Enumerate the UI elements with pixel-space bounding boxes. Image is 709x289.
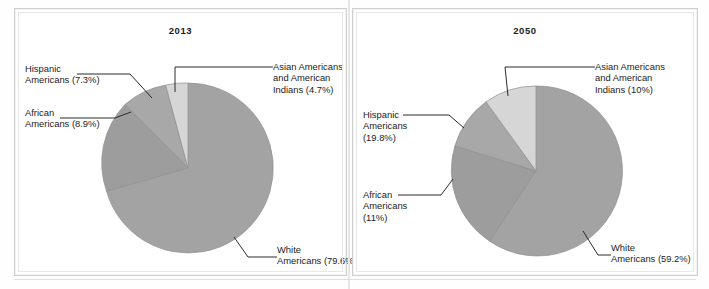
label-asian-line3-2013: Indians (4.7%) [273,84,343,95]
label-african-line3-2050: (11%) [363,212,407,223]
label-white-line2-2050: Americans (59.2%) [611,253,691,264]
chart-panel-2013: 2013 Asian Americans and American Indian… [14,8,347,276]
panel-divider [348,0,350,289]
label-white-americans-2013: White Americans (79.6%) [277,244,357,267]
figure-bottom-rule [14,279,696,280]
label-hispanic-line1-2050: Hispanic [363,109,407,120]
label-african-line2-2050: Americans [363,200,407,211]
label-african-americans-2050: African Americans (11%) [363,189,407,223]
label-hispanic-line3-2050: (19.8%) [363,132,407,143]
label-asian-line1-2050: Asian Americans [595,61,665,72]
label-asian-line3-2050: Indians (10%) [595,84,665,95]
label-hispanic-americans-2050: Hispanic Americans (19.8%) [363,109,407,143]
label-hispanic-americans-2013: Hispanic Americans (7.3%) [25,63,100,86]
label-asian-line1-2013: Asian Americans [273,61,343,72]
label-white-line2-2013: Americans (79.6%) [277,255,357,266]
pie-chart-2013 [15,9,346,275]
label-hispanic-line2-2050: Americans [363,120,407,131]
label-african-line2-2013: Americans (8.9%) [25,118,100,129]
chart-panel-2050: 2050 Asian Americans and American Indian… [352,8,698,276]
label-white-line1-2013: White [277,244,357,255]
label-asian-line2-2013: and American [273,72,343,83]
label-asian-americans-2050: Asian Americans and American Indians (10… [595,61,665,95]
leader-line-hispanic-2050 [403,115,464,128]
label-asian-americans-2013: Asian Americans and American Indians (4.… [273,61,343,95]
label-african-americans-2013: African Americans (8.9%) [25,107,100,130]
leader-line-white-2013 [234,237,277,257]
label-asian-line2-2050: and American [595,72,665,83]
label-white-line1-2050: White [611,242,691,253]
label-hispanic-line2-2013: Americans (7.3%) [25,74,100,85]
label-african-line1-2013: African [25,107,100,118]
label-hispanic-line1-2013: Hispanic [25,63,100,74]
figure-stage: 2013 Asian Americans and American Indian… [0,0,709,289]
label-white-americans-2050: White Americans (59.2%) [611,242,691,265]
label-african-line1-2050: African [363,189,407,200]
